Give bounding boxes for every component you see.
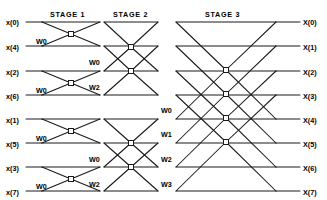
twiddle-label-8: W0 xyxy=(161,106,172,115)
output-label-1: X(1) xyxy=(303,43,317,52)
output-label-6: X(6) xyxy=(303,164,317,173)
butterfly-node-3-0 xyxy=(224,68,229,73)
input-label-1: x(4) xyxy=(6,43,19,52)
input-label-6: x(3) xyxy=(6,164,19,173)
stage-title-1: STAGE 2 xyxy=(113,10,148,19)
butterfly-node-2-3 xyxy=(129,165,134,170)
twiddle-label-7: W2 xyxy=(89,180,100,189)
butterfly-node-3-3 xyxy=(224,140,229,145)
output-label-2: X(2) xyxy=(303,68,317,77)
output-label-5: X(5) xyxy=(303,140,317,149)
twiddle-label-10: W2 xyxy=(161,155,172,164)
twiddle-label-5: W2 xyxy=(89,83,100,92)
butterfly-node-2-2 xyxy=(129,141,134,146)
input-label-2: x(2) xyxy=(6,68,19,77)
input-label-3: x(6) xyxy=(6,92,19,101)
butterfly-node-3-2 xyxy=(224,116,229,121)
output-label-4: X(4) xyxy=(303,116,317,125)
butterfly-node-1-1 xyxy=(69,81,74,86)
output-label-3: X(3) xyxy=(303,92,317,101)
twiddle-label-4: W0 xyxy=(89,58,100,67)
output-label-0: X(0) xyxy=(303,18,317,27)
butterfly-node-3-1 xyxy=(224,92,229,97)
input-label-4: x(1) xyxy=(6,116,19,125)
twiddle-label-3: W0 xyxy=(36,182,47,191)
stage-title-2: STAGE 3 xyxy=(205,10,240,19)
twiddle-label-9: W1 xyxy=(161,130,172,139)
butterfly-node-1-3 xyxy=(69,177,74,182)
stage-title-0: STAGE 1 xyxy=(50,10,85,19)
fft-butterfly-diagram: STAGE 1STAGE 2STAGE 3 x(0)x(4)x(2)x(6)x(… xyxy=(0,0,327,200)
signal-flow-graph xyxy=(0,0,327,200)
butterfly-node-1-2 xyxy=(69,129,74,134)
butterfly-node-2-0 xyxy=(129,45,134,50)
input-label-7: x(7) xyxy=(6,188,19,197)
output-label-7: X(7) xyxy=(303,188,317,197)
twiddle-label-0: W0 xyxy=(36,37,47,46)
twiddle-label-1: W0 xyxy=(36,86,47,95)
twiddle-label-11: W3 xyxy=(161,180,172,189)
input-label-5: x(5) xyxy=(6,140,19,149)
butterfly-node-1-0 xyxy=(69,32,74,37)
butterfly-node-2-1 xyxy=(129,69,134,74)
twiddle-label-2: W0 xyxy=(36,134,47,143)
twiddle-label-6: W0 xyxy=(89,155,100,164)
input-label-0: x(0) xyxy=(6,18,19,27)
